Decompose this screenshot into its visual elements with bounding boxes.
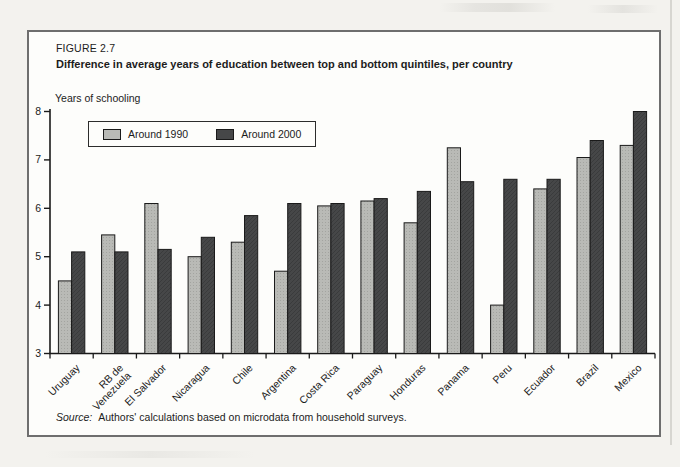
bar-around-1990	[447, 148, 460, 354]
bar-around-1990	[404, 223, 417, 354]
figure-number: FIGURE 2.7	[56, 42, 115, 54]
bar-around-2000	[374, 199, 387, 354]
x-category-label: Brazil	[574, 361, 601, 388]
legend-swatch-2000	[216, 129, 234, 140]
bar-around-1990	[102, 235, 115, 354]
legend-item-2000: Around 2000	[216, 128, 301, 140]
y-axis-title: Years of schooling	[55, 92, 140, 104]
legend-label-1990: Around 1990	[128, 128, 188, 140]
y-tick-label: 3	[35, 347, 41, 359]
x-category-label: El Salvador	[122, 361, 169, 408]
bar-around-2000	[461, 182, 474, 354]
legend-item-1990: Around 1990	[103, 128, 188, 140]
bar-around-1990	[188, 257, 201, 354]
x-category-label: Uruguay	[45, 361, 82, 398]
legend-label-2000: Around 2000	[241, 128, 301, 140]
x-category-label: Honduras	[387, 361, 428, 402]
scan-artifact	[588, 5, 658, 13]
x-category-label: Ecuador	[521, 361, 557, 397]
bar-around-2000	[158, 249, 171, 353]
bar-around-2000	[245, 216, 258, 354]
source-text: Authors' calculations based on microdata…	[98, 411, 406, 423]
bar-around-1990	[491, 305, 504, 353]
bar-around-1990	[318, 206, 331, 354]
bar-around-1990	[534, 189, 547, 354]
scan-page-edge	[670, 0, 672, 445]
bar-around-2000	[201, 237, 214, 353]
y-tick-label: 4	[35, 299, 41, 311]
legend-swatch-1990	[103, 129, 121, 140]
x-category-label: Paraguay	[344, 361, 385, 402]
scan-artifact	[45, 451, 255, 458]
x-category-label: Mexico	[612, 361, 644, 393]
x-category-label: Argentina	[258, 361, 298, 401]
bar-around-2000	[417, 191, 430, 353]
bar-around-1990	[231, 242, 244, 353]
bar-around-2000	[633, 112, 646, 354]
y-tick-label: 6	[35, 202, 41, 214]
source-line: Source:Authors' calculations based on mi…	[56, 411, 407, 423]
bar-around-1990	[275, 271, 288, 353]
bar-around-2000	[115, 252, 128, 354]
y-tick-label: 7	[35, 153, 41, 165]
bar-around-1990	[577, 158, 590, 354]
bar-around-2000	[590, 141, 603, 354]
y-tick-label: 8	[35, 105, 41, 117]
figure-title: Difference in average years of education…	[56, 58, 636, 70]
bar-around-1990	[361, 201, 374, 354]
x-category-label: Peru	[490, 361, 514, 385]
bar-around-2000	[547, 179, 560, 353]
bar-chart-svg: 345678UruguayRB deVenezuelaEl SalvadorNi…	[30, 104, 660, 416]
source-label: Source:	[56, 411, 92, 423]
x-category-label: Chile	[229, 361, 255, 387]
x-category-label: Panama	[435, 361, 471, 397]
scan-artifact	[440, 3, 555, 12]
x-category-label: Nicaragua	[169, 361, 211, 403]
bar-around-2000	[72, 252, 85, 354]
chart-legend: Around 1990 Around 2000	[88, 121, 316, 147]
bar-around-1990	[58, 281, 71, 354]
x-category-label: RB deVenezuela	[82, 361, 133, 412]
bar-around-1990	[145, 204, 158, 354]
figure-box: FIGURE 2.7 Difference in average years o…	[27, 30, 661, 437]
x-category-label: Costa Rica	[297, 361, 342, 406]
bar-around-2000	[288, 204, 301, 354]
bar-around-2000	[504, 179, 517, 353]
y-tick-label: 5	[35, 250, 41, 262]
bar-around-2000	[331, 204, 344, 354]
scanned-report-page: { "figure": { "label": "FIGURE 2.7", "ti…	[0, 0, 680, 467]
bar-around-1990	[620, 145, 633, 353]
